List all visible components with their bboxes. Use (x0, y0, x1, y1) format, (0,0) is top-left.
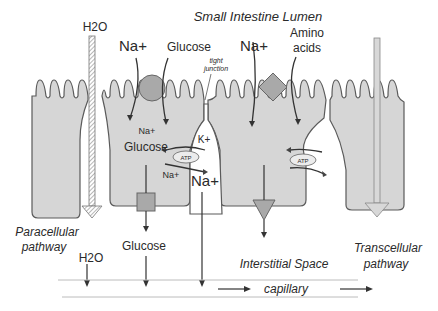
na-right-label: Na+ (240, 37, 268, 54)
tight-junction-label-1: tight (209, 57, 223, 65)
glucose-bottom-label: Glucose (122, 239, 166, 253)
atp-label-left: ATP (180, 155, 191, 161)
epithelial-cell-1 (32, 80, 88, 218)
k-plus-label: K+ (198, 134, 211, 145)
epithelial-cell-4 (330, 80, 404, 210)
h2o-top-label: H2O (83, 20, 108, 34)
lumen-title: Small Intestine Lumen (194, 9, 323, 24)
paracellular-arrowhead-icon (82, 206, 102, 218)
capillary-flow-arrow-icon (244, 286, 251, 292)
na-small-label: Na+ (163, 170, 180, 180)
capillary-label: capillary (264, 282, 309, 296)
na-big-label: Na+ (191, 172, 219, 189)
paracellular-label-1: Paracellular (15, 225, 79, 239)
amino-acids-label-2: acids (293, 41, 321, 55)
interstitial-space-label: Interstitial Space (240, 257, 329, 271)
amino-acids-label-1: Amino (290, 26, 324, 40)
basolateral-aa-transporter-icon (253, 200, 275, 220)
transcellular-label-1: Transcellular (354, 241, 423, 255)
cell-na-label: Na+ (139, 126, 156, 136)
capillary-flow-arrow-2-icon (366, 286, 373, 292)
h2o-bottom-label: H2O (79, 251, 104, 265)
paracellular-h2o-shaft (89, 36, 95, 206)
glut-transporter-icon (137, 193, 155, 211)
epithelial-cell-3 (208, 80, 326, 206)
paracellular-label-2: pathway (21, 240, 68, 254)
transcellular-label-2: pathway (363, 257, 410, 271)
tight-junction-label-2: junction (203, 65, 228, 73)
tight-junction-pointer (205, 74, 211, 100)
intestinal-absorption-diagram: Small Intestine Lumen (0, 0, 438, 311)
glucose-top-label: Glucose (167, 40, 211, 54)
sglt-transporter-icon (139, 75, 165, 101)
na-left-label: Na+ (119, 37, 147, 54)
cell-glucose-label: Glucose (124, 140, 168, 154)
transcellular-shaft (374, 38, 380, 203)
atp-label-right: ATP (297, 158, 308, 164)
